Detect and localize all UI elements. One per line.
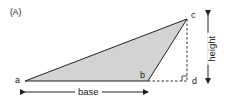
panel-label: (A) xyxy=(10,8,21,17)
base-label: base xyxy=(75,87,102,97)
point-label-a: a xyxy=(15,76,20,85)
height-label: height xyxy=(207,33,217,65)
right-angle-marker xyxy=(182,76,187,81)
point-label-d: d xyxy=(192,77,197,86)
point-label-c: c xyxy=(191,11,196,20)
triangle-abc xyxy=(25,19,187,81)
point-label-b: b xyxy=(140,71,145,80)
